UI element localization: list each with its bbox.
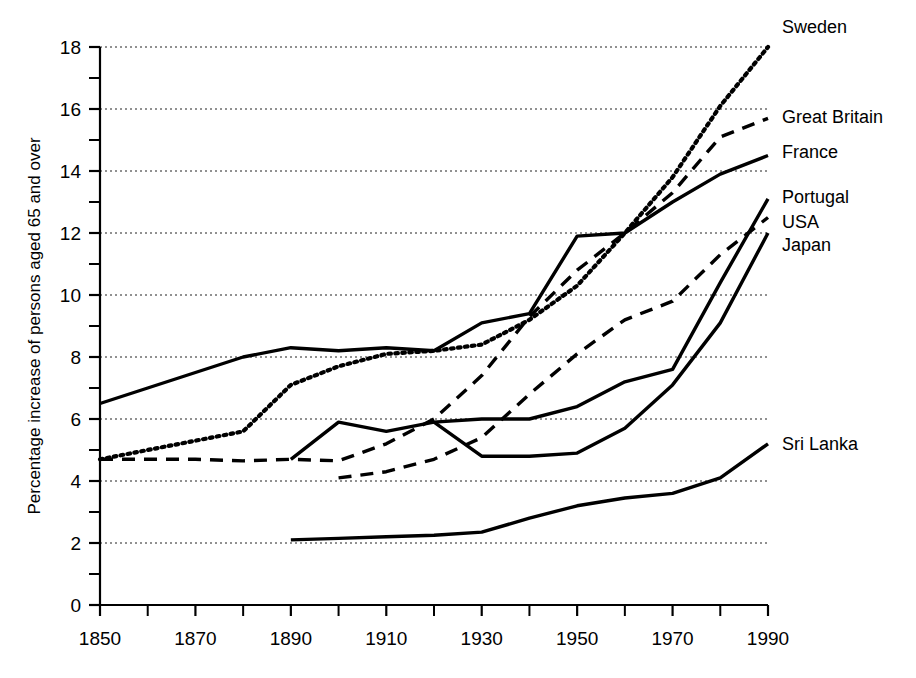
- x-tick-label-1930: 1930: [461, 628, 503, 649]
- axis-spines: [100, 47, 768, 605]
- x-tick-label-1970: 1970: [651, 628, 693, 649]
- y-axis-ticks: [89, 47, 100, 605]
- line-chart: 024681012141618 185018701890191019301950…: [0, 0, 916, 678]
- series-line-portugal: [291, 199, 768, 459]
- series-label-usa: USA: [782, 212, 819, 232]
- y-tick-label-2: 2: [70, 533, 81, 554]
- series-line-france: [100, 156, 768, 404]
- y-tick-label-8: 8: [70, 347, 81, 368]
- y-tick-label-0: 0: [70, 595, 81, 616]
- chart-container: 024681012141618 185018701890191019301950…: [0, 0, 916, 678]
- y-tick-label-6: 6: [70, 409, 81, 430]
- x-tick-label-1870: 1870: [174, 628, 216, 649]
- series-label-sri-lanka: Sri Lanka: [782, 434, 859, 454]
- y-tick-label-10: 10: [60, 285, 81, 306]
- y-axis-title: Percentage increase of persons aged 65 a…: [25, 137, 44, 514]
- series-label-portugal: Portugal: [782, 187, 849, 207]
- series-label-france: France: [782, 142, 838, 162]
- series-line-japan: [434, 233, 768, 456]
- series-label-sweden: Sweden: [782, 17, 847, 37]
- x-tick-label-1890: 1890: [270, 628, 312, 649]
- x-axis-ticks: [100, 605, 768, 616]
- y-tick-label-18: 18: [60, 37, 81, 58]
- y-tick-label-4: 4: [70, 471, 81, 492]
- x-axis-tick-labels: 18501870189019101930195019701990: [79, 628, 789, 649]
- gridlines: [100, 47, 770, 543]
- series-label-japan: Japan: [782, 235, 831, 255]
- y-tick-label-14: 14: [60, 161, 82, 182]
- series-label-great-britain: Great Britain: [782, 107, 883, 127]
- x-tick-label-1910: 1910: [365, 628, 407, 649]
- x-tick-label-1990: 1990: [747, 628, 789, 649]
- data-series: [100, 47, 768, 540]
- series-line-great-britain: [100, 118, 768, 461]
- y-axis-tick-labels: 024681012141618: [60, 37, 82, 616]
- series-line-sri-lanka: [291, 444, 768, 540]
- x-tick-label-1850: 1850: [79, 628, 121, 649]
- series-labels: SwedenGreat BritainFrancePortugalUSAJapa…: [782, 17, 883, 454]
- x-tick-label-1950: 1950: [556, 628, 598, 649]
- y-tick-label-12: 12: [60, 223, 81, 244]
- y-tick-label-16: 16: [60, 99, 81, 120]
